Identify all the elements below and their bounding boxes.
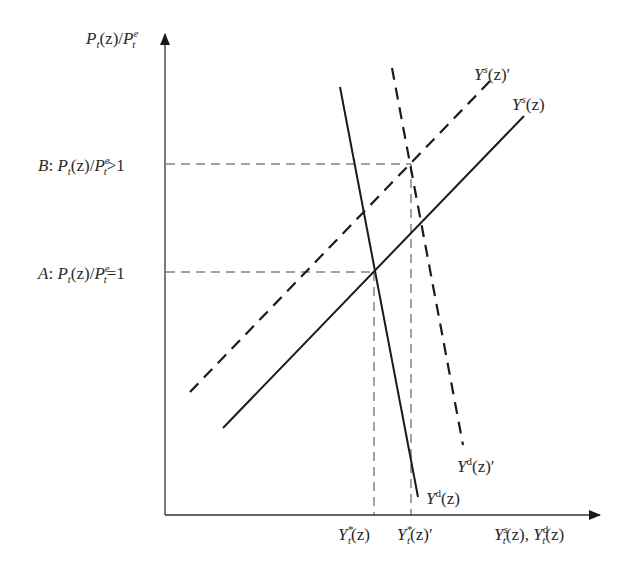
- level-b-label: B: Pt(z)/Pet>1: [38, 155, 125, 177]
- diagram-canvas: [0, 0, 635, 581]
- y-axis-label: Pt(z)/Pet: [86, 28, 135, 50]
- level-b-prefix: B: [38, 156, 48, 175]
- guide-lines: [166, 164, 411, 515]
- demand-shifted-label: Yd(z)′: [457, 456, 495, 475]
- supply-curve-shifted: [190, 80, 491, 392]
- level-a-prefix: A: [38, 264, 48, 283]
- demand-curve-shifted: [392, 68, 463, 445]
- y-axis-label-p: P: [86, 29, 96, 48]
- level-a-label: A: Pt(z)/Pet=1: [38, 263, 125, 285]
- x-tick-equilibrium-b: Y*t(z)′: [397, 524, 433, 546]
- demand-label: Yd(z): [426, 488, 460, 507]
- x-axis-label: Yst(z), Ydt(z): [494, 524, 564, 546]
- x-tick-equilibrium-a: Y*t(z): [338, 524, 370, 546]
- supply-label: Ys(z): [512, 94, 545, 113]
- supply-shifted-label: Ys(z)′: [474, 64, 510, 83]
